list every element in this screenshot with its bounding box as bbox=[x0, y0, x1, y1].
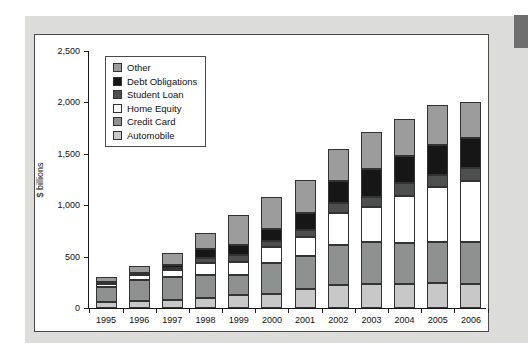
legend-label: Home Equity bbox=[127, 103, 181, 114]
bar-segment-home-equity bbox=[394, 196, 415, 243]
bar-segment-automobile bbox=[295, 289, 316, 308]
bar-segment-student-loan bbox=[427, 175, 448, 187]
bar-segment-automobile bbox=[460, 284, 481, 308]
bar-segment-credit-card bbox=[162, 277, 183, 300]
bar-segment-other bbox=[162, 253, 183, 265]
x-tick bbox=[322, 309, 323, 313]
bar-segment-automobile bbox=[129, 301, 150, 308]
legend-swatch-icon bbox=[113, 90, 122, 99]
legend-swatch-icon bbox=[113, 117, 122, 126]
bar-segment-other bbox=[261, 197, 282, 229]
x-category-label: 2006 bbox=[454, 315, 488, 325]
bar-segment-home-equity bbox=[361, 207, 382, 242]
x-tick bbox=[123, 309, 124, 313]
bar-segment-other bbox=[394, 119, 415, 157]
bar-segment-student-loan bbox=[361, 197, 382, 206]
x-tick bbox=[222, 309, 223, 313]
bar-segment-credit-card bbox=[427, 242, 448, 283]
bar-segment-home-equity bbox=[460, 181, 481, 243]
y-tick-label: 1,000 bbox=[48, 200, 80, 210]
legend-item-other: Other bbox=[113, 62, 197, 73]
bar-segment-student-loan bbox=[228, 255, 249, 262]
bar-segment-credit-card bbox=[361, 242, 382, 285]
bar-segment-automobile bbox=[394, 284, 415, 308]
legend-label: Automobile bbox=[127, 130, 175, 141]
legend-label: Other bbox=[127, 62, 151, 73]
bar-segment-credit-card bbox=[129, 280, 150, 301]
page-background: $ billions 05001,0001,5002,0002,500 1995… bbox=[0, 0, 528, 357]
bar-segment-debt-obligations bbox=[361, 169, 382, 197]
bar-segment-debt-obligations bbox=[394, 156, 415, 183]
x-tick bbox=[388, 309, 389, 313]
bar-segment-student-loan bbox=[460, 168, 481, 181]
bar-segment-debt-obligations bbox=[295, 213, 316, 230]
legend-item-debt-obligations: Debt Obligations bbox=[113, 76, 197, 87]
y-axis-title: $ billions bbox=[33, 35, 47, 325]
bar-segment-student-loan bbox=[162, 268, 183, 271]
bar-segment-automobile bbox=[162, 300, 183, 308]
x-tick bbox=[454, 309, 455, 313]
x-category-label: 1997 bbox=[155, 315, 189, 325]
legend-swatch-icon bbox=[113, 77, 122, 86]
bar-segment-debt-obligations bbox=[195, 249, 216, 257]
page-corner-tab bbox=[514, 15, 528, 48]
y-tick-label: 2,000 bbox=[48, 97, 80, 107]
bar-segment-student-loan bbox=[394, 183, 415, 196]
chart-panel: $ billions 05001,0001,5002,0002,500 1995… bbox=[34, 34, 489, 332]
y-tick-label: 0 bbox=[48, 303, 80, 313]
bar-segment-student-loan bbox=[295, 230, 316, 237]
bar-segment-credit-card bbox=[394, 243, 415, 284]
legend-item-home-equity: Home Equity bbox=[113, 103, 197, 114]
x-tick bbox=[189, 309, 190, 313]
bar-segment-other bbox=[427, 105, 448, 145]
y-tick bbox=[84, 308, 88, 309]
bar-segment-automobile bbox=[261, 294, 282, 308]
legend-label: Credit Card bbox=[127, 116, 176, 127]
bar-segment-automobile bbox=[328, 285, 349, 308]
bar-segment-credit-card bbox=[96, 287, 117, 301]
y-axis-line bbox=[88, 51, 89, 308]
bar-segment-debt-obligations bbox=[162, 265, 183, 268]
bar-segment-home-equity bbox=[162, 270, 183, 277]
bar-segment-other bbox=[129, 266, 150, 273]
bar-segment-other bbox=[228, 215, 249, 245]
bar-segment-debt-obligations bbox=[328, 181, 349, 204]
bar-segment-automobile bbox=[228, 295, 249, 308]
x-category-label: 1996 bbox=[122, 315, 156, 325]
bar-segment-debt-obligations bbox=[228, 245, 249, 255]
x-tick bbox=[355, 309, 356, 313]
bar-segment-debt-obligations bbox=[129, 273, 150, 275]
bar-segment-other bbox=[295, 180, 316, 213]
x-category-label: 2000 bbox=[255, 315, 289, 325]
x-tick bbox=[421, 309, 422, 313]
bar-segment-other bbox=[96, 277, 117, 282]
bar-segment-home-equity bbox=[295, 237, 316, 256]
legend-swatch-icon bbox=[113, 104, 122, 113]
bar-segment-other bbox=[328, 149, 349, 180]
bar-segment-student-loan bbox=[328, 203, 349, 213]
x-category-label: 2002 bbox=[321, 315, 355, 325]
y-tick bbox=[84, 51, 88, 52]
bar-segment-student-loan bbox=[195, 258, 216, 263]
x-tick bbox=[288, 309, 289, 313]
bar-segment-home-equity bbox=[261, 247, 282, 263]
legend-label: Debt Obligations bbox=[127, 76, 197, 87]
legend-item-automobile: Automobile bbox=[113, 130, 197, 141]
bar-segment-credit-card bbox=[295, 256, 316, 290]
bar-segment-other bbox=[195, 233, 216, 249]
bar-segment-automobile bbox=[427, 283, 448, 308]
legend-item-credit-card: Credit Card bbox=[113, 116, 197, 127]
bar-segment-home-equity bbox=[195, 263, 216, 275]
legend-label: Student Loan bbox=[127, 89, 184, 100]
x-category-label: 2004 bbox=[388, 315, 422, 325]
x-tick bbox=[156, 309, 157, 313]
bar-segment-home-equity bbox=[427, 187, 448, 242]
bar-segment-student-loan bbox=[261, 241, 282, 247]
bar-segment-debt-obligations bbox=[261, 229, 282, 241]
x-category-label: 1995 bbox=[89, 315, 123, 325]
x-category-label: 2001 bbox=[288, 315, 322, 325]
bar-segment-credit-card bbox=[195, 275, 216, 298]
bar-segment-other bbox=[460, 102, 481, 137]
x-axis-line bbox=[88, 308, 486, 309]
bar-segment-home-equity bbox=[328, 213, 349, 245]
